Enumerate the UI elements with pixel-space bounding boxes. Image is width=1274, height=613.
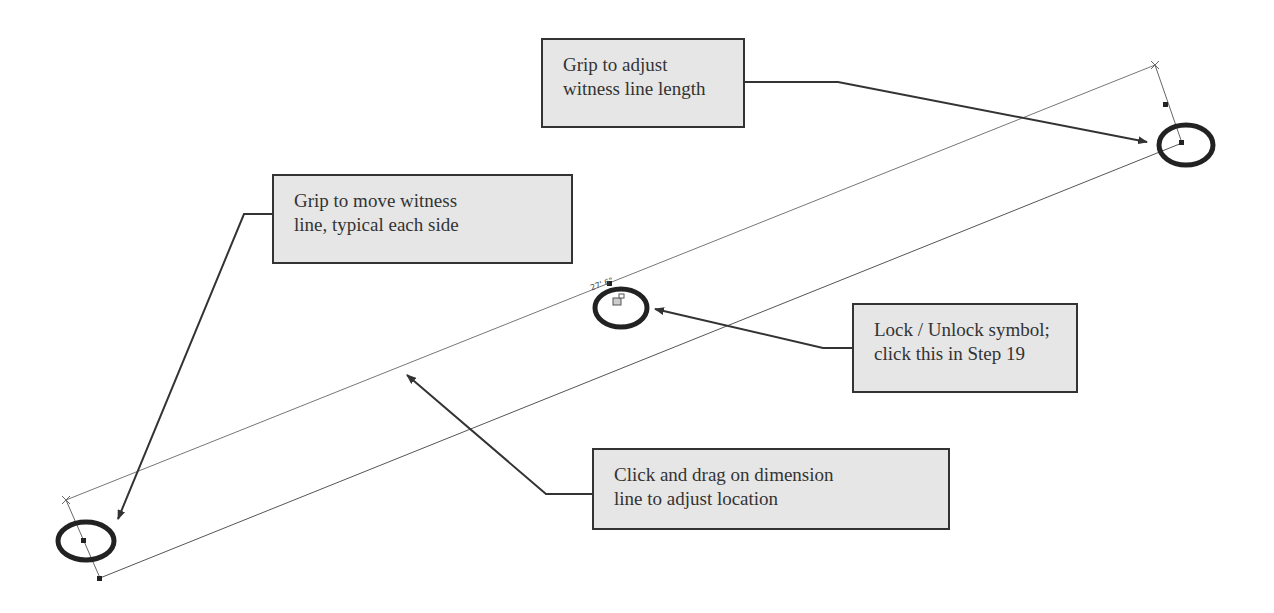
callout-text-line: witness line length — [563, 77, 723, 101]
left-baseline-grip[interactable] — [97, 576, 102, 581]
callout-text-line: line, typical each side — [294, 213, 551, 237]
highlight-ring-right — [1159, 125, 1213, 165]
lock-unlock-icon[interactable] — [613, 294, 624, 305]
leader-arrow-witness-length — [744, 82, 1147, 142]
right-witness-length-grip[interactable] — [1163, 102, 1168, 107]
left-dimension-tick-icon — [62, 496, 70, 504]
callout-witness-line-length: Grip to adjust witness line length — [541, 38, 745, 128]
left-witness-grip[interactable] — [81, 538, 86, 543]
callout-text-line: line to adjust location — [614, 487, 928, 511]
callout-lock-unlock: Lock / Unlock symbol; click this in Step… — [852, 303, 1078, 393]
callout-text-line: Lock / Unlock symbol; — [874, 318, 1056, 342]
callout-text-line: Click and drag on dimension — [614, 463, 928, 487]
leader-arrow-drag-dimension — [407, 375, 592, 494]
callout-text-line: Grip to move witness — [294, 189, 551, 213]
right-dimension-tick-icon — [1151, 61, 1159, 69]
leader-arrow-move-witness — [118, 214, 272, 519]
callout-move-witness-line: Grip to move witness line, typical each … — [272, 174, 573, 264]
right-witness-grip[interactable] — [1179, 140, 1184, 145]
callout-text-line: Grip to adjust — [563, 53, 723, 77]
callout-drag-dimension-line: Click and drag on dimension line to adju… — [592, 448, 950, 530]
callout-text-line: click this in Step 19 — [874, 342, 1056, 366]
